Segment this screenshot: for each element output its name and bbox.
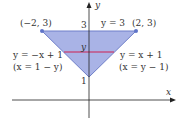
vertex-right-label: (2, 3) bbox=[132, 18, 156, 28]
y-axis-label: y bbox=[94, 0, 101, 10]
y-axis-arrow-icon bbox=[87, 2, 92, 8]
x-axis-label: x bbox=[166, 87, 171, 97]
right-line-alt-equation: (x = y − 1) bbox=[119, 62, 168, 72]
cross-section-y-label: y bbox=[80, 42, 87, 52]
vertex-right bbox=[134, 29, 138, 33]
vertex-left bbox=[40, 29, 44, 33]
region-diagram: y x 3 1 (−2, 3) (2, 3) y = 3 y y = −x + … bbox=[0, 0, 181, 123]
top-line-label: y = 3 bbox=[100, 18, 125, 28]
tick-label-1: 1 bbox=[81, 76, 87, 86]
vertex-left-label: (−2, 3) bbox=[20, 18, 52, 28]
tick-label-3: 3 bbox=[81, 20, 87, 30]
left-line-equation: y = −x + 1 bbox=[12, 50, 63, 60]
x-axis-arrow-icon bbox=[170, 98, 176, 103]
left-line-alt-equation: (x = 1 − y) bbox=[13, 62, 62, 72]
right-line-equation: y = x + 1 bbox=[119, 50, 162, 60]
